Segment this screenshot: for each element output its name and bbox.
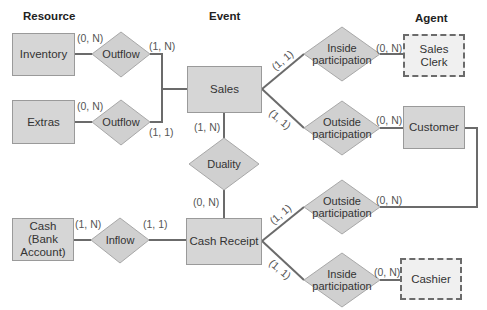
cardinality-inventory-outflow: (0, N) bbox=[77, 32, 103, 44]
entity-inventory[interactable]: Inventory bbox=[12, 33, 75, 76]
outflow-label-2: Outflow bbox=[92, 114, 150, 130]
header-agent: Agent bbox=[415, 12, 448, 24]
outflow-label-1: Outflow bbox=[92, 46, 150, 62]
entity-sales[interactable]: Sales bbox=[187, 66, 262, 113]
outside-participation-cash-label: Outside participation bbox=[304, 193, 380, 221]
cardinality-extras-outflow: (0, N) bbox=[77, 100, 103, 112]
entity-sales-clerk-label: Sales Clerk bbox=[405, 43, 463, 69]
entity-cash-label-3: Account) bbox=[20, 246, 65, 259]
entity-cash-label-1: Cash bbox=[30, 220, 57, 233]
cardinality-outside-customer-2: (0, N) bbox=[376, 194, 402, 206]
outside-participation-sales-label: Outside participation bbox=[304, 114, 380, 142]
cardinality-inflow-cashreceipt: (1, 1) bbox=[143, 218, 168, 230]
entity-customer-label: Customer bbox=[409, 121, 459, 134]
header-event: Event bbox=[209, 10, 240, 22]
entity-sales-label: Sales bbox=[210, 83, 239, 96]
entity-sales-clerk[interactable]: Sales Clerk bbox=[403, 34, 465, 77]
header-resource: Resource bbox=[23, 10, 75, 22]
inside-participation-cash-label: Inside participation bbox=[304, 266, 380, 294]
cardinality-outflow1-sales: (1, N) bbox=[149, 40, 175, 52]
inflow-label: Inflow bbox=[91, 232, 149, 248]
entity-cash-label-2: (Bank bbox=[28, 233, 58, 246]
entity-customer[interactable]: Customer bbox=[403, 106, 465, 149]
cardinality-duality-cashreceipt: (0, N) bbox=[193, 196, 219, 208]
entity-cashier[interactable]: Cashier bbox=[400, 258, 462, 300]
inside-participation-sales-label: Inside participation bbox=[304, 40, 380, 68]
entity-cash[interactable]: Cash (Bank Account) bbox=[12, 218, 74, 261]
entity-cash-receipt[interactable]: Cash Receipt bbox=[186, 218, 262, 265]
cardinality-inside-cashier: (0, N) bbox=[374, 266, 400, 278]
entity-cash-receipt-label: Cash Receipt bbox=[189, 235, 258, 248]
cardinality-outflow2-sales: (1, 1) bbox=[149, 126, 174, 138]
cardinality-inside-salesclerk: (0, N) bbox=[376, 42, 402, 54]
entity-extras-label: Extras bbox=[27, 116, 60, 129]
entity-extras[interactable]: Extras bbox=[12, 100, 75, 144]
duality-label: Duality bbox=[189, 156, 259, 172]
cardinality-outside-customer: (0, N) bbox=[376, 114, 402, 126]
cardinality-cash-inflow: (1, N) bbox=[75, 218, 101, 230]
entity-inventory-label: Inventory bbox=[20, 48, 67, 61]
cardinality-sales-duality: (1, N) bbox=[194, 121, 220, 133]
entity-cashier-label: Cashier bbox=[411, 273, 451, 286]
